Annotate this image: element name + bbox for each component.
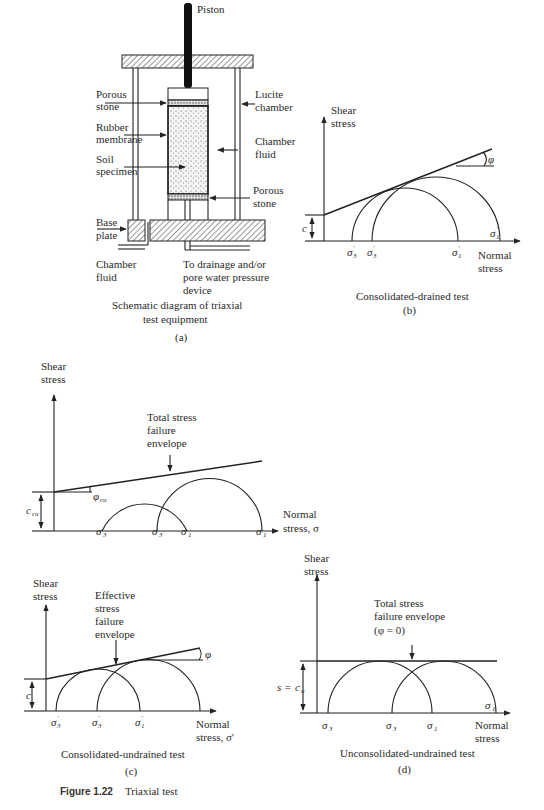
x-axis-label-2: stress, σ xyxy=(283,522,319,534)
label-drainage-3: device xyxy=(183,284,212,296)
label-soil-specimen-2: specimen xyxy=(96,165,138,177)
label-porous-stone-bottom-2: stone xyxy=(253,197,276,209)
soil-specimen xyxy=(168,106,208,194)
failure-envelope xyxy=(324,149,492,215)
panel-d-chart: s =cu Shear stress Total stress failure … xyxy=(277,552,510,776)
svg-text:3: 3 xyxy=(56,722,61,730)
tick-sigma1-b: σ1′ xyxy=(490,225,500,241)
porous-stone-top xyxy=(168,100,208,106)
svg-text:c: c xyxy=(295,681,300,693)
piston-rod xyxy=(184,3,192,88)
x-axis-label-1: Normal xyxy=(283,508,317,520)
label-porous-stone-top-2: stone xyxy=(96,100,119,112)
annotation-4: envelope xyxy=(95,628,135,640)
label-chamber-fluid-right-2: fluid xyxy=(255,148,276,160)
svg-text:1: 1 xyxy=(263,531,267,539)
svg-text:σ: σ xyxy=(256,525,262,537)
label-base-plate-2: plate xyxy=(96,229,117,241)
x-axis-label-1: Normal xyxy=(475,719,509,731)
label-chamber-fluid-right-1: Chamber xyxy=(255,135,296,147)
svg-text:′: ′ xyxy=(98,714,100,722)
svg-text:′: ′ xyxy=(57,714,59,722)
svg-text:σ: σ xyxy=(485,699,491,711)
annotation-2: stress xyxy=(95,602,119,614)
annotation-2: failure xyxy=(147,424,176,436)
porous-stone-bottom xyxy=(168,194,208,200)
svg-text:σ: σ xyxy=(96,525,102,537)
svg-text:cu: cu xyxy=(32,510,39,518)
svg-text:u: u xyxy=(301,687,305,695)
svg-text:3: 3 xyxy=(372,252,377,260)
y-axis-label-1: Shear xyxy=(304,552,329,564)
svg-text:σ: σ xyxy=(322,719,328,731)
figure-caption: Figure 1.22 Triaxial test xyxy=(60,785,177,797)
panel-c-title: Consolidated-undrained test xyxy=(61,748,185,760)
cohesion-label: c xyxy=(302,222,307,234)
tick-sigma1-b: σ1 xyxy=(256,525,267,539)
label-soil-specimen-1: Soil xyxy=(96,153,114,165)
label-porous-stone-top-1: Porous xyxy=(96,88,127,100)
svg-text:′: ′ xyxy=(373,244,375,252)
svg-text:σ: σ xyxy=(152,525,158,537)
base-plate-left xyxy=(128,220,145,241)
label-rubber-membrane-2: membrane xyxy=(96,133,143,145)
svg-text:c: c xyxy=(26,504,31,516)
panel-c-letter: (c) xyxy=(125,765,138,778)
panel-b-title: Consolidated-drained test xyxy=(356,290,469,302)
y-axis-label-2: stress xyxy=(33,590,57,602)
mohr-circle-2 xyxy=(372,177,500,241)
annotation-1: Total stress xyxy=(374,597,424,609)
svg-text:s =: s = xyxy=(277,681,291,693)
annotation-2: failure envelope xyxy=(374,610,445,622)
tick-sigma1-a: σ1′ xyxy=(452,244,462,260)
y-axis-label-2: stress xyxy=(331,117,355,129)
svg-text:1: 1 xyxy=(141,722,145,730)
s-equals-cu-label: s =cu xyxy=(277,681,305,695)
phi-label: φ xyxy=(205,648,211,660)
svg-text:3: 3 xyxy=(328,725,333,733)
panel-a-schematic: Piston Porous stone Rubber membrane Soil… xyxy=(96,3,296,344)
label-lucite-chamber-1: Lucite xyxy=(255,88,283,100)
tick-sigma3-a: σ3 xyxy=(322,719,333,733)
label-rubber-membrane-1: Rubber xyxy=(96,121,129,133)
tick-sigma1-a: σ1 xyxy=(181,525,192,539)
cohesion-label: c xyxy=(26,689,31,701)
label-drainage-2: pore water pressure xyxy=(183,271,269,283)
figure-canvas: Piston Porous stone Rubber membrane Soil… xyxy=(0,0,544,810)
label-lucite-chamber-2: chamber xyxy=(255,101,293,113)
tick-sigma3-a: σ3′ xyxy=(51,714,61,730)
svg-text:1: 1 xyxy=(434,725,438,733)
svg-text:3: 3 xyxy=(102,531,107,539)
svg-text:φ: φ xyxy=(93,490,99,502)
annotation-1: Total stress xyxy=(147,411,197,423)
figure-title: Triaxial test xyxy=(125,785,177,797)
panel-c-effective-chart: φ c Shear stress Effective stress failur… xyxy=(24,577,234,778)
svg-text:σ: σ xyxy=(386,719,392,731)
tick-sigma1: σ1′ xyxy=(135,714,145,730)
y-axis-label-1: Shear xyxy=(41,360,66,372)
x-axis-label-1: Normal xyxy=(478,249,512,261)
x-axis-label-2: stress xyxy=(475,732,499,744)
label-drainage-1: To drainage and/or xyxy=(183,258,266,270)
tick-sigma3-a: σ3 xyxy=(96,525,107,539)
annotation-3: (φ = 0) xyxy=(374,624,405,637)
svg-text:′: ′ xyxy=(353,244,355,252)
label-piston: Piston xyxy=(197,3,225,15)
label-chamber-fluid-left-2: fluid xyxy=(96,271,117,283)
panel-d-title: Unconsolidated-undrained test xyxy=(340,747,475,759)
y-axis-label-2: stress xyxy=(41,373,65,385)
svg-text:cu: cu xyxy=(100,496,107,504)
x-axis-label-2: stress, σ′ xyxy=(196,731,234,743)
y-axis-label-2: stress xyxy=(304,565,328,577)
svg-text:′: ′ xyxy=(458,244,460,252)
y-axis-label-1: Shear xyxy=(33,577,58,589)
svg-text:1: 1 xyxy=(492,705,496,713)
panel-c-total-chart: φcu ccu Shear stress Total stress failur… xyxy=(26,360,319,539)
label-chamber-fluid-left-1: Chamber xyxy=(96,258,137,270)
x-axis-label-1: Normal xyxy=(196,718,230,730)
panel-d-letter: (d) xyxy=(398,763,411,776)
svg-text:′: ′ xyxy=(141,714,143,722)
svg-text:1: 1 xyxy=(496,233,500,241)
x-axis-label-2: stress xyxy=(478,262,502,274)
svg-text:3: 3 xyxy=(158,531,163,539)
